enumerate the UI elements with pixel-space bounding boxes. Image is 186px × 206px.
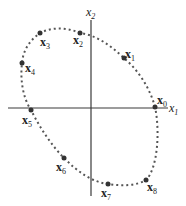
point-x4 (20, 61, 25, 66)
point-label-x7: x7 (101, 186, 111, 202)
point-x6 (62, 156, 67, 161)
point-label-x8: x8 (147, 180, 157, 196)
trajectory-curve (21, 29, 157, 186)
point-label-x1: x1 (125, 47, 135, 63)
x2-axis-label: x2 (85, 5, 95, 21)
point-label-x0: x0 (157, 93, 167, 109)
point-label-x5: x5 (22, 113, 32, 129)
point-label-x2: x2 (73, 33, 83, 49)
point-x5 (29, 108, 34, 113)
x1-axis-label: x1 (168, 101, 178, 117)
point-label-x6: x6 (56, 160, 66, 176)
iterate-points: x0x1x2x3x4x5x6x7x8 (20, 31, 168, 203)
point-label-x3: x3 (40, 35, 50, 51)
point-label-x4: x4 (25, 61, 35, 77)
diagram-canvas: x1 x2 x0x1x2x3x4x5x6x7x8 (0, 0, 186, 206)
